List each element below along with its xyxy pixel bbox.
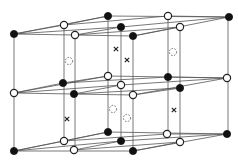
dashed-circle-icon [65,57,72,64]
filled-atom-icon [10,30,17,37]
filled-atom-icon [117,137,124,144]
filled-atom-icon [104,12,111,19]
layer-edge [63,77,168,83]
open-atom-icon [71,31,78,38]
open-atom-icon [129,91,136,98]
filled-atom-icon [164,73,171,80]
filled-atom-icon [70,90,77,97]
open-atom-icon [60,21,67,28]
filled-atom-icon [59,79,66,86]
layer-edge [64,16,108,25]
layer-edge [14,85,121,93]
open-atom-icon [223,74,230,81]
layer-edge [14,141,64,151]
open-atom-icon [163,130,170,137]
layer-edge [74,142,180,150]
layer-edge [74,141,121,150]
filled-atom-icon [223,130,230,137]
filled-atom-icon [117,23,124,30]
layer-edge [121,134,227,141]
cross-icon [125,58,129,62]
cross-icon [172,108,176,112]
layer-edge [133,27,180,36]
filled-atom-icon [129,32,136,39]
layer-edge [64,16,168,25]
layer-edge [168,77,227,78]
open-atom-icon [176,23,183,30]
dashed-circle-icon [109,105,116,112]
filled-atom-icon [176,84,183,91]
filled-atom-icon [104,128,111,135]
open-atom-icon [176,138,183,145]
filled-atom-icon [225,13,232,20]
filled-atom-icon [10,147,17,154]
layer-edge [75,27,180,35]
dashed-circle-icon [169,48,176,55]
open-atom-icon [117,81,124,88]
open-atom-icon [10,89,17,96]
cross-icon [65,117,69,121]
dashed-circle-icon [123,114,130,121]
open-atom-icon [70,146,77,153]
open-atom-icon [164,12,171,19]
filled-atom-icon [129,147,136,154]
crystal-lattice-diagram [0,0,238,165]
open-atom-icon [60,137,67,144]
cross-icon [114,47,118,51]
open-atom-icon [104,72,111,79]
layer-edge [133,142,180,151]
